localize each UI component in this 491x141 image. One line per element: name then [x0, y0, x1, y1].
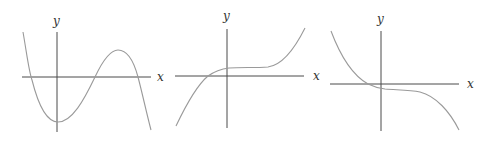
curve [331, 31, 459, 130]
graph-3: x y [330, 12, 474, 131]
cubic-graphs-figure: x y x y x y [0, 0, 491, 141]
x-axis-label: x [313, 69, 320, 83]
x-axis-label: x [157, 70, 164, 84]
y-axis-label: y [52, 14, 60, 28]
graph-1: x y [22, 14, 164, 132]
curve [176, 28, 305, 126]
graph-2: x y [175, 9, 320, 128]
curve [23, 32, 151, 130]
y-axis-label: y [376, 12, 384, 26]
y-axis-label: y [222, 9, 230, 23]
x-axis-label: x [467, 77, 474, 91]
